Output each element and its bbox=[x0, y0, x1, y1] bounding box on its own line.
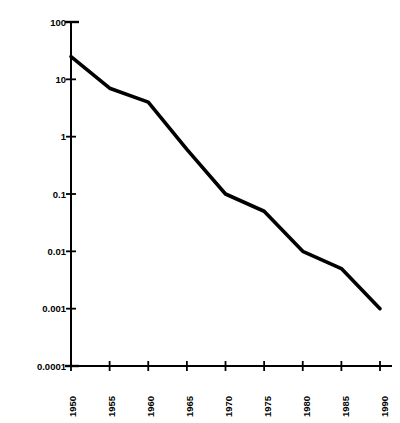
chart-container: Relative cost per computation 100 10 1 0… bbox=[0, 0, 400, 423]
axes bbox=[71, 22, 392, 366]
plot-area bbox=[0, 0, 400, 423]
data-series-line bbox=[71, 57, 380, 309]
